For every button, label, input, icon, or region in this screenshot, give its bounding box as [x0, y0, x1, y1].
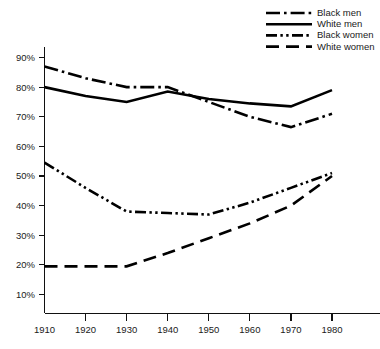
chart-container: 10%20%30%40%50%60%70%80%90% 191019201930… — [0, 0, 380, 349]
line-chart: 10%20%30%40%50%60%70%80%90% 191019201930… — [0, 0, 380, 349]
y-tick-label: 90% — [16, 52, 36, 63]
y-tick-label: 70% — [16, 111, 36, 122]
legend-label-white-women: White women — [317, 41, 375, 52]
series-line-black-women — [45, 163, 333, 215]
y-tick-label: 30% — [16, 230, 36, 241]
x-tick-label: 1910 — [34, 324, 55, 335]
x-tick-label: 1960 — [239, 324, 260, 335]
y-tick-label: 40% — [16, 200, 36, 211]
legend-label-black-men: Black men — [317, 7, 361, 18]
x-axis: 19101920193019401950196019701980 — [34, 314, 380, 336]
y-tick-label: 10% — [16, 289, 36, 300]
y-tick-label: 60% — [16, 141, 36, 152]
x-tick-label: 1950 — [198, 324, 219, 335]
y-axis-ticks: 10%20%30%40%50%60%70%80%90% — [16, 52, 45, 300]
chart-legend: Black menWhite menBlack womenWhite women — [266, 7, 375, 52]
legend-label-white-men: White men — [317, 18, 362, 29]
legend-label-black-women: Black women — [317, 29, 374, 40]
series-line-white-men — [45, 87, 333, 106]
x-tick-label: 1940 — [157, 324, 178, 335]
series-lines — [45, 66, 333, 266]
x-tick-label: 1920 — [75, 324, 96, 335]
x-tick-label: 1980 — [321, 324, 342, 335]
x-tick-label: 1970 — [280, 324, 301, 335]
y-axis: 10%20%30%40%50%60%70%80%90% — [16, 47, 45, 313]
y-tick-label: 20% — [16, 259, 36, 270]
y-tick-label: 80% — [16, 82, 36, 93]
y-tick-label: 50% — [16, 170, 36, 181]
x-axis-ticks: 19101920193019401950196019701980 — [34, 314, 343, 336]
x-tick-label: 1930 — [116, 324, 137, 335]
